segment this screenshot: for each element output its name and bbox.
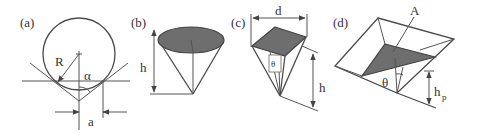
panel-c-pyramid-tip: (c) d θ h <box>231 3 326 111</box>
panel-c-label: (c) <box>231 15 245 30</box>
height-subscript: p <box>442 92 447 102</box>
width-symbol: a <box>88 114 94 129</box>
panel-d-label: (d) <box>333 15 348 30</box>
axis-symbol: A <box>410 3 420 18</box>
face-line <box>397 67 403 93</box>
angle-symbol: α <box>84 68 91 83</box>
height-symbol: h <box>140 60 147 75</box>
axis-a-line <box>393 17 414 52</box>
edge-left <box>335 66 362 76</box>
indenter-geometry-figure: (a) R α a (b) h (c) <box>0 0 481 135</box>
panel-d-berkovich-tip: (d) A θ h p <box>333 3 454 108</box>
width-symbol: d <box>275 3 282 18</box>
radius-symbol: R <box>55 54 64 69</box>
theta-arc <box>396 74 403 75</box>
panel-a-label: (a) <box>20 15 34 30</box>
h-extension-top <box>302 46 318 53</box>
h-extension-bottom <box>280 96 318 111</box>
panel-a-spherical-tip: (a) R α a <box>20 15 130 130</box>
angle-symbol: θ <box>271 59 275 69</box>
height-symbol: h <box>434 84 441 99</box>
panel-b-conical-tip: (b) h <box>131 15 224 94</box>
panel-b-label: (b) <box>131 15 146 30</box>
angle-symbol: θ <box>382 75 388 90</box>
pyramid-top-face <box>252 27 306 56</box>
height-symbol: h <box>319 80 326 95</box>
edge-top <box>378 18 385 44</box>
bottom-extension-line <box>397 93 436 108</box>
